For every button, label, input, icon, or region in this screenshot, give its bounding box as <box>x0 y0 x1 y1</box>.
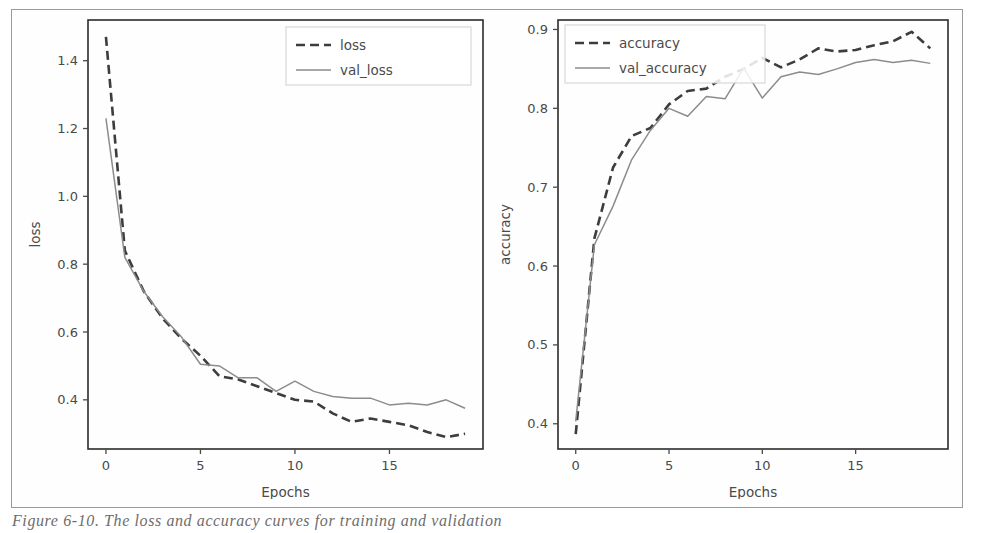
figure-caption: Figure 6-10. The loss and accuracy curve… <box>12 512 972 533</box>
figure-page: 0510150.40.60.81.01.21.4Epochslosslossva… <box>0 0 982 533</box>
series-line-loss <box>106 37 465 437</box>
x-tick-label: 5 <box>196 458 204 473</box>
y-tick-label: 0.8 <box>57 257 78 272</box>
y-tick-label: 0.6 <box>527 259 548 274</box>
accuracy-axes: 0510150.40.50.60.70.80.9Epochsaccuracyac… <box>483 0 963 499</box>
x-tick-label: 15 <box>847 458 864 473</box>
legend-label-accuracy: accuracy <box>619 35 680 51</box>
y-axis-title: accuracy <box>497 204 513 265</box>
y-tick-label: 1.4 <box>57 53 78 68</box>
series-line-val_accuracy <box>576 59 931 421</box>
x-tick-label: 15 <box>381 458 398 473</box>
x-tick-label: 5 <box>665 458 673 473</box>
x-axis-title: Epochs <box>729 484 777 499</box>
legend-label-val_loss: val_loss <box>340 62 393 78</box>
legend-label-val_accuracy: val_accuracy <box>619 60 707 76</box>
y-tick-label: 0.6 <box>57 325 78 340</box>
accuracy-panel: 0510150.40.50.60.70.80.9Epochsaccuracyac… <box>483 0 963 499</box>
y-tick-label: 1.2 <box>57 121 78 136</box>
figure-body: 0510150.40.60.81.01.21.4Epochslosslossva… <box>0 0 982 533</box>
loss-panel: 0510150.40.60.81.01.21.4Epochslosslossva… <box>11 0 491 499</box>
y-axis-title: loss <box>27 221 43 247</box>
x-tick-label: 0 <box>102 458 110 473</box>
y-tick-label: 0.9 <box>527 22 548 37</box>
series-line-accuracy <box>576 32 931 434</box>
y-tick-label: 0.4 <box>527 416 548 431</box>
y-tick-label: 1.0 <box>57 189 78 204</box>
x-axis-title: Epochs <box>261 484 309 499</box>
y-tick-label: 0.8 <box>527 101 548 116</box>
x-tick-label: 0 <box>572 458 580 473</box>
series-line-val_loss <box>106 118 465 408</box>
y-tick-label: 0.5 <box>527 337 548 352</box>
x-tick-label: 10 <box>754 458 771 473</box>
legend-label-loss: loss <box>340 37 366 53</box>
loss-axes: 0510150.40.60.81.01.21.4Epochslosslossva… <box>11 0 491 499</box>
y-tick-label: 0.4 <box>57 392 78 407</box>
x-tick-label: 10 <box>287 458 304 473</box>
y-tick-label: 0.7 <box>527 180 548 195</box>
